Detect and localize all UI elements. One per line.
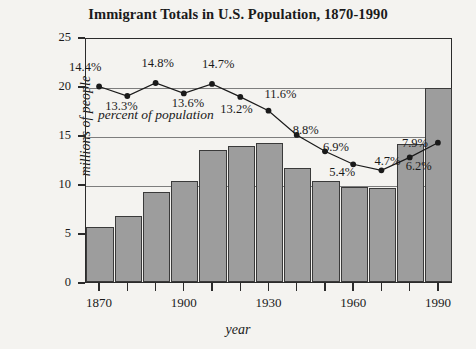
x-tick-1960 bbox=[352, 283, 353, 291]
x-tick-1910 bbox=[211, 283, 212, 291]
bar-1890 bbox=[143, 192, 170, 282]
x-tick-label-1990: 1990 bbox=[408, 295, 468, 311]
percent-label-1950: 6.9% bbox=[323, 140, 349, 155]
percent-label-1960: 5.4% bbox=[329, 165, 355, 180]
y-tick-label-10: 10 bbox=[39, 177, 71, 192]
bar-1960 bbox=[341, 187, 368, 282]
y-tick-15 bbox=[78, 135, 85, 136]
x-tick-1940 bbox=[296, 283, 297, 291]
x-axis-title: year bbox=[0, 322, 476, 338]
percent-label-1980: 6.2% bbox=[406, 159, 432, 174]
x-tick-1950 bbox=[324, 283, 325, 291]
percent-label-1870: 14.4% bbox=[69, 60, 101, 75]
percent-label-1990: 7.9% bbox=[402, 136, 428, 151]
x-tick-1890 bbox=[155, 283, 156, 291]
bar-1920 bbox=[228, 146, 255, 282]
y-tick-label-0: 0 bbox=[39, 275, 71, 290]
bar-1940 bbox=[284, 168, 311, 282]
bar-1950 bbox=[312, 181, 339, 282]
percent-label-1930: 11.6% bbox=[265, 87, 297, 102]
y-tick-label-25: 25 bbox=[39, 30, 71, 45]
x-tick-1970 bbox=[381, 283, 382, 291]
series-annotation-percent-of-population: percent of population bbox=[98, 107, 214, 123]
percent-label-1920: 13.2% bbox=[220, 102, 252, 117]
x-tick-1920 bbox=[240, 283, 241, 291]
y-tick-label-15: 15 bbox=[39, 128, 71, 143]
percent-label-1970: 4.7% bbox=[374, 154, 400, 169]
y-tick-5 bbox=[78, 233, 85, 234]
y-tick-25 bbox=[78, 37, 85, 38]
x-tick-label-1960: 1960 bbox=[323, 295, 383, 311]
x-tick-1900 bbox=[183, 283, 184, 291]
bar-1880 bbox=[115, 216, 142, 282]
x-tick-1990 bbox=[437, 283, 438, 291]
y-tick-20 bbox=[78, 86, 85, 87]
x-tick-1880 bbox=[127, 283, 128, 291]
bar-1990 bbox=[425, 88, 452, 282]
x-tick-label-1900: 1900 bbox=[154, 295, 214, 311]
x-tick-label-1870: 1870 bbox=[69, 295, 129, 311]
chart-figure: Immigrant Totals in U.S. Population, 187… bbox=[0, 0, 476, 349]
bar-1970 bbox=[369, 188, 396, 282]
chart-title: Immigrant Totals in U.S. Population, 187… bbox=[0, 6, 476, 23]
percent-label-1910: 14.7% bbox=[202, 57, 234, 72]
bar-1870 bbox=[86, 227, 113, 282]
bar-1910 bbox=[199, 150, 226, 282]
y-tick-10 bbox=[78, 184, 85, 185]
bar-1900 bbox=[171, 181, 198, 282]
y-tick-label-20: 20 bbox=[39, 79, 71, 94]
x-tick-1870 bbox=[98, 283, 99, 291]
x-tick-1980 bbox=[409, 283, 410, 291]
percent-label-1890: 14.8% bbox=[142, 56, 174, 71]
bar-1930 bbox=[256, 143, 283, 282]
y-tick-0 bbox=[78, 282, 85, 283]
x-tick-label-1930: 1930 bbox=[239, 295, 299, 311]
y-tick-label-5: 5 bbox=[39, 226, 71, 241]
x-tick-1930 bbox=[268, 283, 269, 291]
percent-label-1940: 8.8% bbox=[293, 123, 319, 138]
